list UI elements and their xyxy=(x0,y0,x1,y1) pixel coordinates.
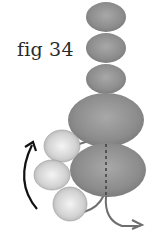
bead-large-middle xyxy=(68,93,144,147)
thread-arrowhead-icon xyxy=(132,220,142,229)
bead-light-side-3 xyxy=(53,187,87,221)
bead-small-top-1 xyxy=(86,2,126,32)
bead-large-bottom xyxy=(70,143,146,197)
bead-small-top-3 xyxy=(86,64,126,94)
bead-light-side-1 xyxy=(44,130,80,162)
bead-small-top-2 xyxy=(86,33,126,63)
bead-light-side-2 xyxy=(34,160,70,190)
bead-diagram xyxy=(0,0,168,231)
